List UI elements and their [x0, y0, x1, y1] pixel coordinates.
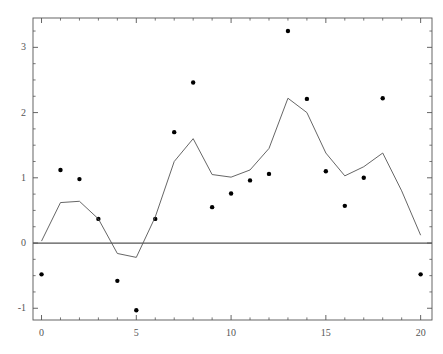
- x-axis-tick-label: 5: [134, 328, 139, 338]
- data-point-marker: [134, 308, 138, 312]
- x-axis-tick-label: 15: [321, 328, 331, 338]
- data-point-marker: [191, 80, 195, 84]
- x-axis-tick-label: 10: [226, 328, 236, 338]
- data-point-marker: [229, 191, 233, 195]
- data-point-marker: [286, 29, 290, 33]
- data-point-marker: [172, 130, 176, 134]
- data-point-marker: [324, 169, 328, 173]
- y-axis-tick-label: 0: [21, 238, 26, 248]
- data-point-marker: [248, 178, 252, 182]
- data-point-marker: [381, 96, 385, 100]
- data-point-marker: [115, 279, 119, 283]
- data-point-marker: [39, 272, 43, 276]
- data-point-marker: [210, 205, 214, 209]
- x-axis-tick-label: 20: [416, 328, 426, 338]
- x-axis-tick-label: 0: [39, 328, 44, 338]
- y-axis-tick-label: -1: [18, 303, 26, 313]
- data-point-marker: [58, 168, 62, 172]
- data-point-marker: [343, 204, 347, 208]
- data-point-marker: [418, 272, 422, 276]
- y-axis-tick-label: 3: [21, 42, 26, 52]
- data-point-marker: [77, 177, 81, 181]
- y-axis-tick-label: 2: [21, 108, 26, 118]
- y-axis-tick-label: 1: [21, 173, 26, 183]
- data-point-marker: [305, 97, 309, 101]
- data-point-marker: [362, 176, 366, 180]
- chart-container: 05101520-10123: [0, 0, 443, 354]
- plot-svg: [0, 0, 443, 354]
- plot-frame: [33, 18, 432, 320]
- data-point-marker: [267, 172, 271, 176]
